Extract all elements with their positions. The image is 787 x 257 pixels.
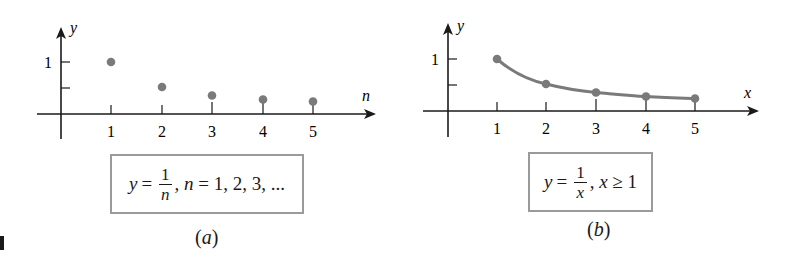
- eq-b-var: x: [599, 171, 607, 193]
- eq-a-var: n: [184, 173, 194, 195]
- eq-a-comma: ,: [175, 173, 185, 195]
- eq-b-numerator: 1: [574, 164, 587, 183]
- point-x1: [493, 55, 502, 64]
- data-points: [107, 58, 318, 106]
- eq-a-equals: =: [141, 173, 152, 195]
- x-axis-label: x: [743, 84, 751, 101]
- eq-b-denominator: x: [577, 183, 585, 201]
- eq-a-numerator: 1: [159, 166, 172, 185]
- eq-b-equals: =: [556, 171, 567, 193]
- clipped-text-fragment: [0, 236, 4, 250]
- point-n2: [158, 83, 167, 92]
- eq-b-comma: ,: [590, 171, 600, 193]
- svg-text:4: 4: [642, 120, 650, 137]
- svg-text:1: 1: [493, 120, 501, 137]
- equation-box-a: y = 1 n , n = 1, 2, 3, ...: [110, 154, 304, 214]
- svg-text:5: 5: [691, 120, 699, 137]
- y-tick-label-1: 1: [44, 54, 52, 71]
- svg-text:5: 5: [309, 123, 317, 140]
- panel-a-plot: y n 1 1 2 3 4 5: [37, 19, 374, 140]
- point-x3: [592, 88, 601, 97]
- data-points: [493, 55, 700, 103]
- caption-a: (a): [195, 226, 218, 249]
- svg-text:2: 2: [542, 120, 550, 137]
- y-tick-label-1: 1: [431, 51, 439, 68]
- point-x2: [542, 80, 551, 89]
- eq-a-domain: = 1, 2, 3, ...: [194, 173, 285, 195]
- y-axis-label: y: [68, 19, 78, 37]
- point-x5: [691, 94, 700, 103]
- equation-box-b: y = 1 x , x ≥ 1: [528, 152, 653, 212]
- point-n4: [259, 95, 268, 104]
- x-ticks: [111, 102, 313, 114]
- x-axis-label: n: [362, 87, 370, 104]
- svg-text:1: 1: [107, 123, 115, 140]
- point-n5: [309, 97, 318, 106]
- x-tick-labels: 1 2 3 4 5: [107, 123, 317, 140]
- point-x4: [642, 92, 651, 101]
- caption-b: (b): [587, 218, 610, 241]
- x-ticks: [497, 99, 695, 111]
- svg-text:3: 3: [592, 120, 600, 137]
- svg-text:3: 3: [208, 123, 216, 140]
- svg-text:4: 4: [259, 123, 267, 140]
- eq-b-lhs: y: [544, 171, 552, 193]
- eq-b-fraction: 1 x: [574, 164, 587, 201]
- point-n3: [208, 91, 217, 100]
- y-axis-label: y: [455, 17, 465, 35]
- svg-text:2: 2: [158, 123, 166, 140]
- point-n1: [107, 58, 116, 67]
- eq-a-lhs: y: [129, 173, 137, 195]
- x-tick-labels: 1 2 3 4 5: [493, 120, 699, 137]
- eq-b-domain: ≥ 1: [608, 171, 637, 193]
- eq-a-denominator: n: [161, 185, 170, 203]
- panel-b-plot: y x 1 1 2 3 4 5: [423, 17, 757, 137]
- eq-a-fraction: 1 n: [159, 166, 172, 203]
- figure-canvas: y n 1 1 2 3 4 5 y: [0, 0, 787, 257]
